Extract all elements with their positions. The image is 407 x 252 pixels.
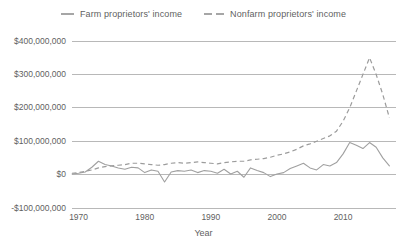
x-axis-tick-label: 2000: [257, 212, 297, 222]
y-axis-tick-label: $0: [57, 169, 66, 179]
x-axis-tick-label: 1990: [191, 212, 231, 222]
y-axis-tick-label: $100,000,000: [14, 136, 66, 146]
x-axis-tick-label: 2010: [323, 212, 363, 222]
chart-container: Farm proprietors' income Nonfarm proprie…: [0, 0, 407, 252]
y-axis-tick-label: $300,000,000: [14, 69, 66, 79]
y-axis-tick-label: -$100,000,000: [11, 203, 66, 213]
y-axis-tick-label: $200,000,000: [14, 102, 66, 112]
x-axis-tick-label: 1970: [59, 212, 99, 222]
x-axis-title: Year: [0, 228, 407, 238]
x-axis-tick-label: 1980: [125, 212, 165, 222]
y-axis-tick-label: $400,000,000: [14, 36, 66, 46]
series-line-farm: [72, 143, 389, 182]
